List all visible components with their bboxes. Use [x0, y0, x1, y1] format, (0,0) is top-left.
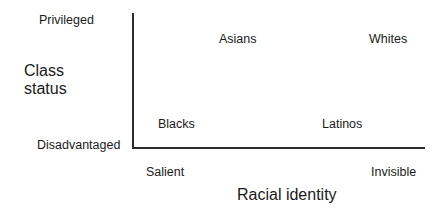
- y-axis-title-line-1: Class: [24, 62, 67, 80]
- data-point-label-asians: Asians: [219, 32, 257, 46]
- quadrant-chart: Privileged Disadvantaged Class status Sa…: [0, 0, 440, 215]
- data-point-label-latinos: Latinos: [322, 117, 362, 131]
- y-axis-top-label: Privileged: [39, 13, 94, 27]
- x-axis-left-label: Salient: [146, 165, 184, 179]
- y-axis-title: Class status: [24, 62, 67, 98]
- x-axis-right-label: Invisible: [371, 165, 416, 179]
- data-point-label-blacks: Blacks: [158, 117, 195, 131]
- y-axis-title-line-2: status: [24, 80, 67, 98]
- y-axis-line: [132, 13, 134, 149]
- data-point-label-whites: Whites: [369, 32, 407, 46]
- y-axis-bottom-label: Disadvantaged: [37, 138, 120, 152]
- x-axis-title: Racial identity: [237, 186, 337, 204]
- x-axis-line: [132, 147, 425, 149]
